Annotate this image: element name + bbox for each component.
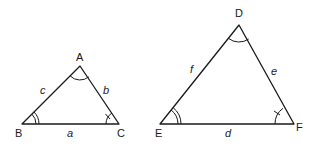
angle-f-arc-marker [275, 108, 283, 124]
angle-a-single-arc-marker [70, 76, 89, 80]
side-label-b: b [103, 84, 109, 96]
vertex-label-b: B [15, 127, 22, 139]
similar-triangles-diagram: A B C c b a D E F f e d [0, 0, 322, 150]
side-label-c: c [40, 84, 46, 96]
angle-e-double-arc-marker-inner [173, 108, 181, 124]
angle-b-double-arc-marker-outer [32, 114, 36, 124]
vertex-label-f: F [296, 121, 303, 133]
vertex-label-c: C [117, 127, 125, 139]
vertex-label-a: A [76, 51, 84, 63]
side-label-d: d [225, 127, 232, 139]
side-label-e: e [271, 65, 277, 77]
vertex-label-e: E [155, 127, 162, 139]
triangle-abc: A B C c b a [15, 51, 125, 139]
triangle-def: D E F f e d [155, 7, 303, 139]
angle-d-single-arc-marker [228, 38, 248, 42]
vertex-label-d: D [235, 7, 243, 19]
angle-c-arc-marker [106, 113, 112, 124]
side-label-a: a [67, 127, 73, 139]
side-label-f: f [190, 63, 194, 75]
